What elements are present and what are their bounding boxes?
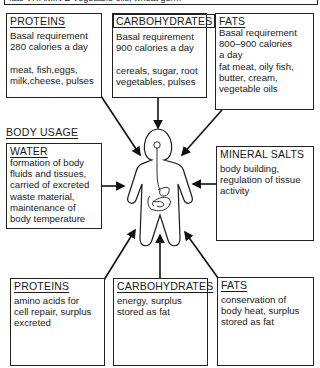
box-body: amino acids for cell repair, surplus exc… <box>14 295 101 329</box>
box-title: WATER <box>10 145 98 157</box>
section-label-body-usage: BODY USAGE <box>6 126 78 138</box>
box-body: Basal requirement 280 calories a day mea… <box>10 30 98 86</box>
usage-proteins-box: PROTEINS amino acids for cell repair, su… <box>10 278 105 366</box>
box-body: Basal requirement 800–900 calories a day… <box>219 27 310 94</box>
box-title: FATS <box>219 15 310 27</box>
box-title: MINERAL SALTS <box>220 148 310 160</box>
box-body: body building, regulation of tissue acti… <box>220 163 310 197</box>
usage-mineral-salts-box: MINERAL SALTS body building, regulation … <box>216 146 314 241</box>
box-body: energy, surplus stored as fat <box>117 295 204 317</box>
usage-water-box: WATER formation of body fluids and tissu… <box>6 143 102 229</box>
box-title: PROTEINS <box>14 280 101 292</box>
source-carbohydrates-box: CARBOHYDRATES Basal requirement 900 calo… <box>112 13 207 98</box>
box-title: FATS <box>221 279 310 291</box>
box-body: Basal requirement 900 calories a day cer… <box>116 31 203 87</box>
box-title: CARBOHYDRATES <box>113 14 215 28</box>
box-body: formation of body fluids and tissues, ca… <box>10 157 98 224</box>
source-fats-box: FATS Basal requirement 800–900 calories … <box>215 13 314 110</box>
box-title: PROTEINS <box>10 15 98 27</box>
source-proteins-box: PROTEINS Basal requirement 280 calories … <box>6 13 102 98</box>
box-title: CARBOHYDRATES <box>117 280 204 292</box>
usage-carbohydrates-box: CARBOHYDRATES energy, surplus stored as … <box>113 278 208 366</box>
usage-fats-box: FATS conservation of body heat, surplus … <box>217 277 314 366</box>
box-body: conservation of body heat, surplus store… <box>221 294 310 328</box>
